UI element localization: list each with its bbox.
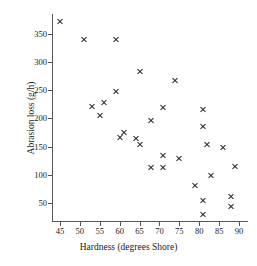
x-tick-label: 50 — [76, 227, 85, 236]
data-point-marker — [136, 68, 143, 75]
data-point-marker — [88, 103, 95, 110]
data-point-marker — [160, 152, 167, 159]
x-tick-label: 70 — [155, 227, 164, 236]
data-point-marker — [228, 203, 235, 210]
data-point-marker — [100, 99, 107, 106]
data-point-marker — [192, 182, 199, 189]
x-tick-label: 80 — [195, 227, 204, 236]
x-tick-label: 65 — [135, 227, 144, 236]
data-point-marker — [176, 155, 183, 162]
x-axis-title: Hardness (degrees Shore) — [0, 243, 257, 253]
scatter-plot-figure: 50100150200250300350 4550556065707580859… — [0, 0, 257, 266]
y-tick-label: 50 — [39, 199, 48, 208]
data-point-marker — [96, 112, 103, 119]
data-point-marker — [172, 77, 179, 84]
data-point-marker — [56, 18, 63, 25]
data-point-marker — [208, 172, 215, 179]
data-point-marker — [228, 193, 235, 200]
y-tick-mark — [48, 62, 52, 63]
data-point-marker — [204, 141, 211, 148]
y-axis-title: Abrasion loss (g/h) — [27, 48, 37, 188]
y-tick-mark — [48, 147, 52, 148]
y-tick-mark — [48, 175, 52, 176]
y-tick-mark — [48, 34, 52, 35]
x-tick-label: 75 — [175, 227, 184, 236]
x-tick-label: 45 — [56, 227, 65, 236]
data-point-marker — [80, 36, 87, 43]
data-point-marker — [200, 106, 207, 113]
data-point-marker — [160, 104, 167, 111]
data-point-marker — [120, 129, 127, 136]
x-tick-label: 55 — [96, 227, 105, 236]
y-axis-title-wrap: Abrasion loss (g/h) — [12, 14, 26, 222]
data-point-marker — [136, 141, 143, 148]
data-point-marker — [148, 117, 155, 124]
data-point-marker — [112, 88, 119, 95]
plot-area: 50100150200250300350 4550556065707580859… — [52, 14, 247, 221]
data-point-marker — [148, 164, 155, 171]
data-point-marker — [220, 144, 227, 151]
data-point-marker — [160, 164, 167, 171]
y-tick-mark — [48, 90, 52, 91]
data-point-marker — [200, 211, 207, 218]
data-point-marker — [112, 36, 119, 43]
x-tick-label: 85 — [215, 227, 224, 236]
data-point-marker — [200, 197, 207, 204]
data-point-marker — [200, 123, 207, 130]
y-tick-mark — [48, 203, 52, 204]
y-tick-mark — [48, 118, 52, 119]
data-point-marker — [232, 163, 239, 170]
x-tick-label: 60 — [115, 227, 124, 236]
y-tick-label: 350 — [34, 29, 47, 38]
x-tick-label: 90 — [235, 227, 244, 236]
